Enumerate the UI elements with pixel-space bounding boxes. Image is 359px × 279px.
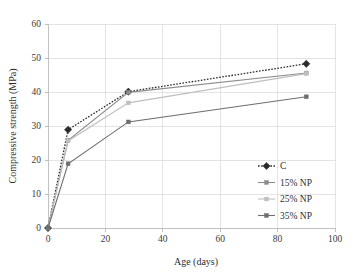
y-tick-label-50: 50 [32, 53, 42, 63]
data-point-2-3 [304, 72, 308, 76]
legend-item-35np[interactable]: 35% NP [258, 211, 312, 221]
data-point-3-0 [46, 226, 50, 230]
chart-legend: C15% NP25% NP35% NP [258, 161, 312, 221]
y-tick-label-20: 20 [32, 155, 42, 165]
x-tick-label-40: 40 [158, 234, 168, 244]
x-axis-title: Age (days) [174, 256, 218, 268]
y-tick-labels: 0102030405060 [32, 19, 42, 233]
series-line-3 [48, 97, 306, 228]
series-35np [46, 95, 308, 230]
y-tick-label-60: 60 [32, 19, 42, 29]
data-point-3-2 [126, 120, 130, 124]
chart-canvas: 0102030405060 020406080100 Age (days) Co… [0, 0, 359, 279]
series-line-0 [48, 64, 306, 228]
y-axis-title: Compressive strength (MPa) [7, 69, 19, 184]
y-tick-label-0: 0 [36, 223, 41, 233]
legend-item-c[interactable]: C [258, 161, 286, 171]
chart-figure: 0102030405060 020406080100 Age (days) Co… [0, 0, 359, 279]
y-tick-label-10: 10 [32, 189, 42, 199]
data-point-2-1 [66, 139, 70, 143]
x-tick-label-100: 100 [328, 234, 343, 244]
legend-label-0: C [280, 161, 286, 171]
legend-label-3: 35% NP [280, 211, 312, 221]
legend-item-25np[interactable]: 25% NP [258, 194, 312, 204]
data-point-3-1 [66, 162, 70, 166]
legend-item-15np[interactable]: 15% NP [258, 178, 312, 188]
data-series-layer [44, 60, 310, 231]
legend-label-1: 15% NP [280, 178, 312, 188]
data-point-2-2 [126, 101, 130, 105]
x-tick-label-20: 20 [101, 234, 111, 244]
x-tick-label-60: 60 [215, 234, 225, 244]
series-c [44, 60, 310, 231]
legend-marker-0 [263, 162, 270, 169]
legend-label-2: 25% NP [280, 194, 312, 204]
x-tick-label-80: 80 [273, 234, 283, 244]
data-point-1-2 [126, 90, 130, 94]
series-25np [46, 72, 308, 230]
legend-marker-1 [265, 181, 269, 185]
legend-marker-3 [265, 214, 269, 218]
y-tick-label-40: 40 [32, 87, 42, 97]
data-point-3-3 [304, 95, 308, 99]
data-point-0-3 [303, 60, 310, 67]
legend-marker-2 [265, 197, 269, 201]
x-tick-labels: 020406080100 [46, 234, 343, 244]
data-point-0-1 [64, 126, 71, 133]
y-tick-label-30: 30 [32, 121, 42, 131]
x-tick-label-0: 0 [46, 234, 51, 244]
